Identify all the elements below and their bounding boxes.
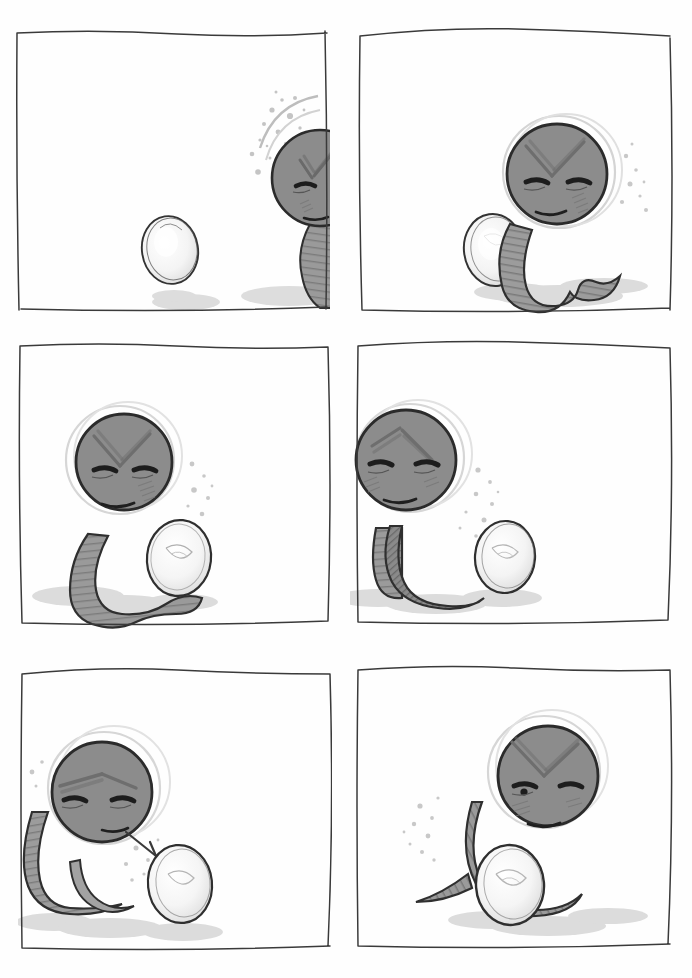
comic-panel-1 — [14, 28, 330, 314]
comic-panel-2 — [354, 24, 676, 316]
comic-panel-4 — [350, 336, 676, 630]
comic-panel-6 — [352, 660, 676, 956]
comic-panel-3 — [16, 340, 332, 630]
comic-panel-5 — [18, 664, 332, 956]
comic-page — [0, 0, 692, 978]
